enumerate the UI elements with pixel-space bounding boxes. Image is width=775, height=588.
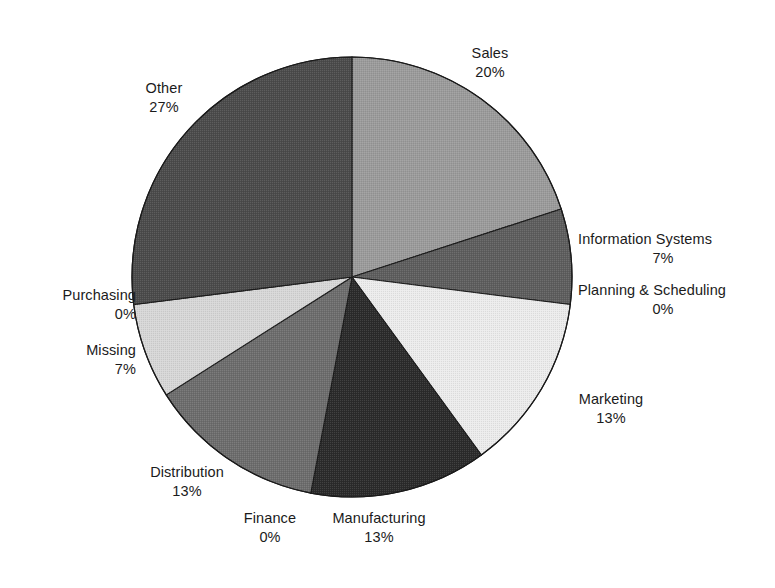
slice-label-information-systems: Information Systems 7% <box>578 230 770 267</box>
slice-label-other: Other 27% <box>118 79 210 116</box>
slice-label-sales: Sales 20% <box>430 44 550 81</box>
slice-label-missing-value: 7% <box>0 360 136 379</box>
slice-label-sales-name: Sales <box>430 44 550 63</box>
slice-label-marketing: Marketing 13% <box>548 390 674 427</box>
slice-label-planning-scheduling: Planning & Scheduling 0% <box>578 281 770 318</box>
slice-label-manufacturing: Manufacturing 13% <box>305 509 453 546</box>
slice-label-missing: Missing 7% <box>0 341 136 378</box>
slice-label-other-value: 27% <box>118 98 210 117</box>
slice-label-purchasing-name: Purchasing <box>0 286 136 305</box>
slice-label-other-name: Other <box>118 79 210 98</box>
slice-label-marketing-value: 13% <box>548 409 674 428</box>
pie-texture-overlay <box>132 57 572 497</box>
slice-label-planning-scheduling-value: 0% <box>578 300 748 319</box>
slice-label-information-systems-value: 7% <box>578 249 748 268</box>
slice-label-finance-name: Finance <box>224 509 316 528</box>
slice-label-distribution: Distribution 13% <box>122 463 252 500</box>
slice-label-marketing-name: Marketing <box>548 390 674 409</box>
slice-label-distribution-name: Distribution <box>122 463 252 482</box>
slice-label-distribution-value: 13% <box>122 482 252 501</box>
slice-label-purchasing: Purchasing 0% <box>0 286 136 323</box>
slice-label-planning-scheduling-name: Planning & Scheduling <box>578 281 726 300</box>
slice-label-missing-name: Missing <box>0 341 136 360</box>
slice-label-purchasing-value: 0% <box>0 305 136 324</box>
slice-label-manufacturing-value: 13% <box>305 528 453 547</box>
slice-label-finance: Finance 0% <box>224 509 316 546</box>
slice-label-manufacturing-name: Manufacturing <box>305 509 453 528</box>
pie-chart-figure: Sales 20% Information Systems 7% Plannin… <box>0 0 775 588</box>
slice-label-sales-value: 20% <box>430 63 550 82</box>
slice-label-information-systems-name: Information Systems <box>578 230 712 249</box>
slice-label-finance-value: 0% <box>224 528 316 547</box>
